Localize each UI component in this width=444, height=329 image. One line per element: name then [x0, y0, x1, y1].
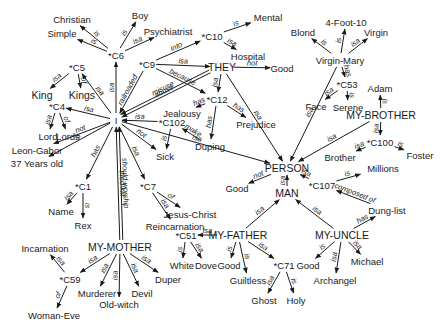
- node-mental: Mental: [254, 12, 283, 23]
- node-c4: *C4: [49, 101, 65, 112]
- edge-label: is: [397, 139, 405, 149]
- node-face: Face: [305, 101, 326, 112]
- edge-label: isa: [278, 176, 287, 186]
- edge-label: is: [317, 241, 327, 251]
- edge-label: has: [342, 64, 354, 78]
- edge-label: isa: [226, 36, 239, 49]
- node-man: MAN: [275, 187, 298, 199]
- node-leon-gabor: Leon-Gabor: [12, 145, 63, 156]
- node-good1: Good: [270, 63, 293, 74]
- node-murderer: Murderer: [78, 288, 117, 299]
- node-holy: Holy: [286, 295, 305, 306]
- edge-label: is: [347, 92, 356, 98]
- node-37years: 37 Years old: [11, 158, 63, 169]
- edge-label: isa: [349, 36, 362, 49]
- node-ghost: Ghost: [251, 295, 277, 306]
- node-brother: Brother: [324, 152, 355, 163]
- node-c53: *C53: [336, 79, 357, 90]
- node-kings: Kings: [69, 89, 95, 101]
- nodes-layer: I*C6ChristianBoySimplePsychiatrist*C5Kin…: [11, 10, 434, 321]
- edge-label: not: [252, 168, 266, 181]
- edge-label: isa: [110, 271, 119, 281]
- node-lord: Lord: [38, 131, 57, 142]
- edge-label: isa: [257, 240, 270, 253]
- node-good4: Good: [296, 260, 319, 271]
- edge-label: isa: [253, 204, 266, 217]
- edge-label: has: [231, 101, 246, 115]
- edge-label: isa: [107, 83, 116, 93]
- node-duping: Duping: [195, 141, 225, 152]
- edge-label: isa: [210, 77, 220, 88]
- edge-label: is: [175, 246, 185, 253]
- edge-isa-arrow: [290, 67, 336, 161]
- edge-label: is: [159, 134, 169, 141]
- node-person: PERSON: [265, 162, 309, 174]
- edge-label: isa: [178, 56, 188, 65]
- node-c7: *C7: [140, 181, 156, 192]
- node-dung-list: Dung-list: [368, 205, 406, 216]
- edge-label: should-worship: [120, 158, 131, 209]
- node-c107: *C107: [309, 180, 335, 191]
- edge-label: isa: [98, 262, 110, 275]
- edge-label: is: [319, 37, 329, 48]
- edge-label: isa: [94, 84, 107, 97]
- node-i: I: [115, 115, 118, 126]
- node-psychiatrist: Psychiatrist: [144, 26, 193, 37]
- edge-label: is: [232, 18, 240, 28]
- node-white: White: [170, 260, 194, 271]
- edge-label: railroaded: [116, 72, 140, 106]
- edge-label: is: [242, 253, 252, 260]
- node-my-uncle: MY-UNCLE: [315, 229, 369, 241]
- node-christian: Christian: [53, 14, 91, 25]
- edge-label: is: [334, 37, 344, 44]
- edge-isa-arrow: [226, 74, 282, 161]
- edge-label: composed of: [333, 181, 377, 205]
- edge-label: isa: [86, 253, 99, 266]
- node-simple: Simple: [47, 28, 76, 39]
- edge-label: is: [224, 245, 234, 253]
- node-incarnation: Incarnation: [21, 243, 68, 254]
- node-prejudice: Prejudice: [236, 119, 276, 130]
- node-king: King: [31, 89, 52, 101]
- edge-label: isa: [353, 139, 365, 151]
- edge-label: isa: [329, 251, 339, 262]
- node-sick: Sick: [156, 151, 174, 162]
- node-rex: Rex: [75, 220, 92, 231]
- node-my-mother: MY-MOTHER: [88, 241, 152, 253]
- node-c10: *C10: [201, 31, 222, 42]
- node-c5: *C5: [69, 62, 85, 73]
- edge-label: isa: [62, 189, 75, 202]
- edge-isa-arrow: [246, 200, 279, 229]
- node-jesus-christ: Jesus-Christ: [164, 209, 217, 220]
- node-archangel: Archangel: [314, 275, 357, 286]
- node-c1: *C1: [75, 181, 91, 192]
- node-dove: Dove: [195, 260, 217, 271]
- edge-label: isa: [131, 34, 143, 46]
- edge-isa-arrow: [296, 200, 334, 229]
- node-c59: *C59: [59, 274, 80, 285]
- edge-label: isa: [322, 85, 335, 98]
- node-adam: Adam: [368, 83, 393, 94]
- node-blond: Blond: [291, 27, 315, 38]
- node-c102: *C102: [159, 117, 185, 128]
- node-c9: *C9: [139, 59, 155, 70]
- diagram-canvas: isisisisaisaisaisaofisaisaofnotishasisai…: [0, 0, 444, 329]
- node-devil: Devil: [131, 288, 152, 299]
- edge-label: isa: [325, 131, 338, 144]
- node-woman-eve: Woman-Eve: [28, 310, 80, 321]
- edge-label: isa: [129, 262, 141, 275]
- node-good3: Good: [217, 260, 240, 271]
- node-they: THEY: [208, 61, 236, 73]
- edge-label: has: [204, 115, 215, 129]
- edge-label: isa: [140, 253, 153, 266]
- node-lords: Lords: [56, 131, 80, 142]
- edge-label: has: [192, 95, 207, 108]
- node-duper: Duper: [155, 274, 181, 285]
- node-my-brother: MY-BROTHER: [346, 109, 416, 121]
- edge-label: of: [53, 290, 64, 300]
- node-virgin: Virgin: [364, 27, 388, 38]
- node-boy: Boy: [132, 10, 149, 21]
- node-4foot10: 4-Foot-10: [325, 17, 366, 28]
- node-michael: Michael: [351, 256, 384, 267]
- edge-label: isa: [54, 254, 67, 267]
